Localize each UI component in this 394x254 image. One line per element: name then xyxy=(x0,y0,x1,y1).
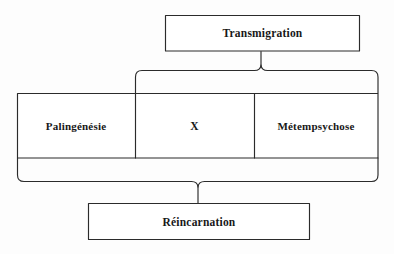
diagram-canvas: Transmigration Palingénésie X Métempsych… xyxy=(0,0,394,254)
diagram-graphics xyxy=(0,0,394,254)
middle-row-box xyxy=(18,94,379,159)
lower-brace xyxy=(18,158,379,204)
upper-brace xyxy=(136,52,379,94)
transmigration-box[interactable] xyxy=(166,16,360,52)
reincarnation-box[interactable] xyxy=(89,204,310,240)
